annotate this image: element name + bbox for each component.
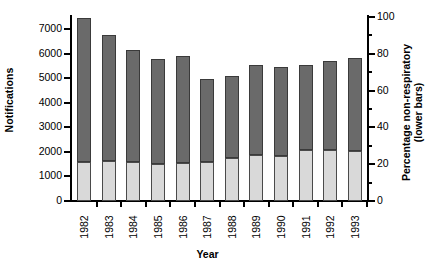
bar-stack (348, 58, 362, 201)
bar-stack (151, 59, 165, 201)
bar-segment-total-notifications (249, 65, 263, 155)
bar-stack (126, 50, 140, 201)
bar-segment-percentage-non-respiratory (299, 150, 313, 201)
bar-segment-percentage-non-respiratory (200, 162, 214, 201)
bar-stack (299, 65, 313, 201)
bar-segment-percentage-non-respiratory (102, 161, 116, 201)
x-axis-tick-label: 1993 (333, 205, 377, 249)
bar-segment-total-notifications (176, 56, 190, 163)
bar-segment-percentage-non-respiratory (274, 156, 288, 201)
bar-stack (274, 67, 288, 201)
bar-segment-percentage-non-respiratory (151, 164, 165, 201)
bar-stack (176, 56, 190, 201)
bar-stack (77, 18, 91, 201)
x-axis-tick-label-text: 1993 (349, 205, 361, 249)
bar-segment-percentage-non-respiratory (323, 150, 337, 201)
bar-stack (225, 76, 239, 201)
bar-segment-total-notifications (225, 76, 239, 157)
chart-container: Notifications Percentage non-respiratory… (0, 0, 433, 270)
bar-segment-total-notifications (299, 65, 313, 151)
bar-segment-percentage-non-respiratory (225, 158, 239, 201)
bar-segment-total-notifications (151, 59, 165, 164)
bar-stack (323, 61, 337, 201)
bar-segment-total-notifications (323, 61, 337, 151)
bar-stack (102, 35, 116, 201)
bar-segment-total-notifications (77, 18, 91, 162)
bar-segment-total-notifications (102, 35, 116, 160)
bar-stack (249, 65, 263, 201)
bar-segment-total-notifications (126, 50, 140, 163)
bar-segment-total-notifications (200, 79, 214, 163)
bar-segment-percentage-non-respiratory (77, 162, 91, 201)
bar-segment-percentage-non-respiratory (249, 155, 263, 201)
bar-segment-percentage-non-respiratory (176, 163, 190, 201)
bar-segment-percentage-non-respiratory (126, 162, 140, 201)
bar-segment-total-notifications (348, 58, 362, 152)
bar-stack (200, 79, 214, 201)
bar-segment-percentage-non-respiratory (348, 151, 362, 201)
bar-segment-total-notifications (274, 67, 288, 156)
